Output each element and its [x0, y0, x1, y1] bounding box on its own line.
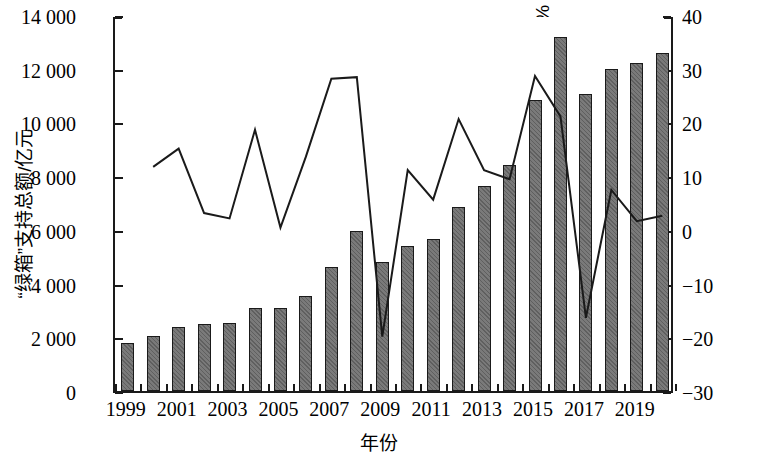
x-axis-title: 年份: [0, 428, 758, 455]
x-axis-tick-label: 2017: [564, 398, 604, 420]
left-axis-tick-label: 8 000: [31, 168, 76, 188]
plot-area: [113, 17, 673, 393]
right-axis-tick-label: 0: [682, 222, 692, 242]
right-axis-tick-label: −10: [682, 276, 713, 296]
x-axis-tick-label: 1999: [106, 398, 146, 420]
y-axis-left-title: “绿箱”支持总额/亿元: [9, 54, 36, 374]
x-axis-tick-label: 2007: [309, 398, 349, 420]
left-axis-tick-label: 14 000: [21, 7, 76, 27]
right-axis-tick-label: 30: [682, 61, 702, 81]
x-axis-tick: [675, 384, 677, 391]
x-axis-tick-label: 2015: [513, 398, 553, 420]
right-axis-tick-label: 40: [682, 7, 702, 27]
left-axis-tick-label: 2 000: [31, 329, 76, 349]
left-axis-tick-label: 12 000: [21, 61, 76, 81]
x-axis-tick-label: 2013: [462, 398, 502, 420]
x-axis-tick-label: 2011: [412, 398, 451, 420]
left-axis-tick-label: 4 000: [31, 276, 76, 296]
right-axis-tick-label: −30: [682, 383, 713, 403]
x-axis-tick-label: 2009: [360, 398, 400, 420]
x-axis-tick-label: 2003: [208, 398, 248, 420]
chart-figure: “绿箱”支持总额/亿元 年均增长率/% 年份 14 00012 00010 00…: [0, 0, 758, 456]
x-axis-tick-label: 2005: [258, 398, 298, 420]
right-axis-tick-label: 10: [682, 168, 702, 188]
left-axis-tick-label: 6 000: [31, 222, 76, 242]
right-axis-tick-label: −20: [682, 329, 713, 349]
right-axis-tick-label: 20: [682, 114, 702, 134]
x-axis-tick-label: 2019: [615, 398, 655, 420]
growth-rate-polyline: [153, 76, 662, 337]
growth-rate-line-series: [115, 17, 675, 393]
left-axis-tick-label: 0: [66, 383, 76, 403]
x-axis-tick-label: 2001: [157, 398, 197, 420]
left-axis-tick-label: 10 000: [21, 114, 76, 134]
